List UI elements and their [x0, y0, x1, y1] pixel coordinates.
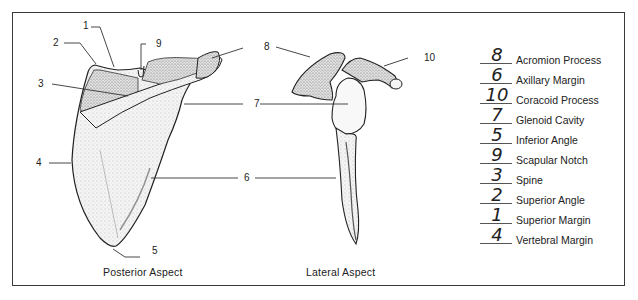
handwritten-answer: 10 [482, 84, 512, 105]
key-row: 4Vertebral Margin [480, 230, 620, 250]
callout-9: 9 [156, 38, 162, 49]
caption-posterior-aspect: Posterior Aspect [103, 266, 183, 278]
callout-1: 1 [83, 20, 89, 31]
handwritten-answer: 6 [482, 64, 512, 85]
caption-lateral-aspect: Lateral Aspect [306, 266, 375, 278]
term-label: Spine [516, 174, 543, 186]
term-label: Vertebral Margin [516, 234, 593, 246]
term-label: Coracoid Process [516, 94, 599, 106]
callout-7: 7 [254, 98, 260, 109]
handwritten-answer: 3 [482, 164, 512, 185]
handwritten-answer: 7 [482, 104, 512, 125]
handwritten-answer: 1 [482, 204, 512, 225]
posterior-scapula [72, 52, 222, 247]
handwritten-answer: 5 [482, 124, 512, 145]
handwritten-answer: 8 [482, 44, 512, 65]
callout-5: 5 [152, 245, 158, 256]
callout-2: 2 [53, 37, 59, 48]
handwritten-answer: 4 [482, 224, 512, 245]
callout-6: 6 [244, 172, 250, 183]
term-label: Scapular Notch [516, 154, 588, 166]
handwritten-answer: 9 [482, 144, 512, 165]
term-label: Superior Angle [516, 194, 585, 206]
term-label: Inferior Angle [516, 134, 578, 146]
term-label: Superior Margin [516, 214, 591, 226]
callout-10: 10 [424, 52, 435, 63]
term-label: Axillary Margin [516, 74, 585, 86]
callout-4: 4 [36, 157, 42, 168]
term-label: Acromion Process [516, 54, 601, 66]
term-label: Glenoid Cavity [516, 114, 584, 126]
callout-3: 3 [38, 78, 44, 89]
lateral-scapula [292, 53, 402, 244]
handwritten-answer: 2 [482, 184, 512, 205]
callout-8: 8 [264, 41, 270, 52]
answer-key: 8Acromion Process 6Axillary Margin 10Cor… [480, 50, 620, 250]
